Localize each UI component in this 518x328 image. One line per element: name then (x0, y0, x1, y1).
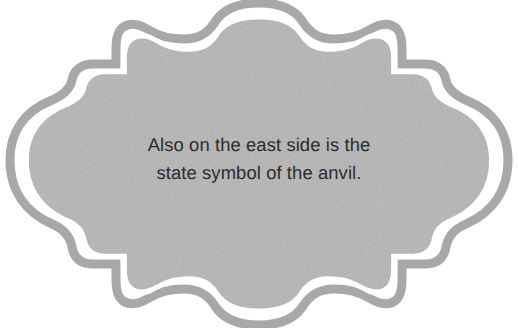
decorative-plaque-graphic (0, 0, 518, 328)
plaque-canvas: Also on the east side is the state symbo… (0, 0, 518, 328)
